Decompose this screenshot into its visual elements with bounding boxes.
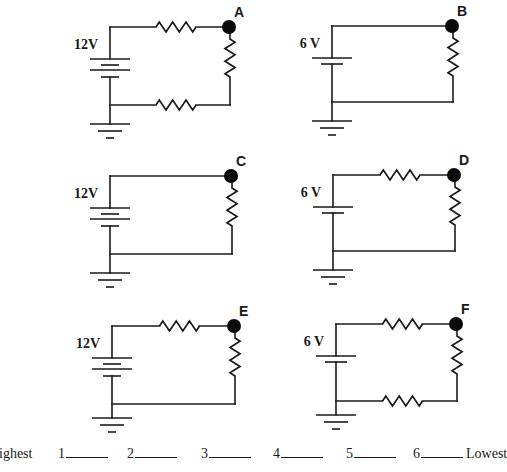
node-point: [222, 20, 236, 34]
node-label: B: [457, 3, 467, 19]
answer-blank[interactable]: [66, 456, 108, 458]
rank-number: 1: [58, 446, 65, 461]
voltage-label: 12V: [76, 336, 100, 351]
answer-blank[interactable]: [354, 456, 396, 458]
rank-slot-4[interactable]: 4: [273, 446, 323, 462]
node-label: C: [236, 153, 246, 169]
voltage-label: 6 V: [300, 36, 320, 51]
node-label: D: [459, 152, 469, 168]
resistor-top: [160, 321, 200, 331]
node-point: [227, 319, 241, 333]
rank-slot-3[interactable]: 3: [201, 446, 251, 462]
highest-label: ighest: [0, 446, 32, 462]
voltage-label: 12V: [74, 37, 98, 52]
voltage-label: 6 V: [304, 334, 324, 349]
circuit-a: A12V: [74, 4, 244, 138]
node-label: E: [239, 303, 248, 319]
resistor-top: [156, 22, 196, 32]
node-point: [445, 19, 459, 33]
rank-number: 3: [201, 446, 208, 461]
rank-slot-5[interactable]: 5: [346, 446, 396, 462]
answer-blank[interactable]: [281, 456, 323, 458]
resistor-right: [227, 188, 237, 226]
circuit-diagram: A12VB6 VC12VD6 VE12VF6 V: [0, 0, 506, 440]
answer-blank[interactable]: [135, 456, 177, 458]
answer-blank[interactable]: [209, 456, 251, 458]
rank-number: 6: [413, 446, 420, 461]
resistor-right: [225, 39, 235, 77]
node-label: F: [461, 301, 470, 317]
voltage-label: 12V: [74, 186, 98, 201]
rank-number: 2: [127, 446, 134, 461]
resistor-top: [383, 319, 423, 329]
rank-number: 5: [346, 446, 353, 461]
circuit-c: C12V: [74, 153, 246, 287]
circuit-b: B6 V: [300, 3, 467, 135]
rank-slot-6[interactable]: 6: [413, 446, 463, 462]
lowest-label: Lowest: [466, 446, 507, 462]
node-point: [447, 168, 461, 182]
resistor-right: [452, 336, 462, 374]
resistor-right: [450, 187, 460, 225]
resistor-right: [448, 38, 458, 76]
node-point: [224, 169, 238, 183]
node-point: [449, 317, 463, 331]
resistor-bottom: [383, 396, 423, 406]
node-label: A: [234, 4, 244, 20]
resistor-right: [230, 338, 240, 376]
rank-number: 4: [273, 446, 280, 461]
circuit-f: F6 V: [304, 301, 470, 429]
circuit-e: E12V: [76, 303, 248, 432]
resistor-top: [380, 170, 420, 180]
rank-slot-2[interactable]: 2: [127, 446, 177, 462]
voltage-label: 6 V: [301, 185, 321, 200]
circuit-d: D6 V: [301, 152, 469, 284]
resistor-bottom: [156, 100, 196, 110]
ranking-row: ighest 1 2 3 4 5 6 Lowest: [0, 446, 506, 466]
answer-blank[interactable]: [421, 456, 463, 458]
rank-slot-1[interactable]: 1: [58, 446, 108, 462]
